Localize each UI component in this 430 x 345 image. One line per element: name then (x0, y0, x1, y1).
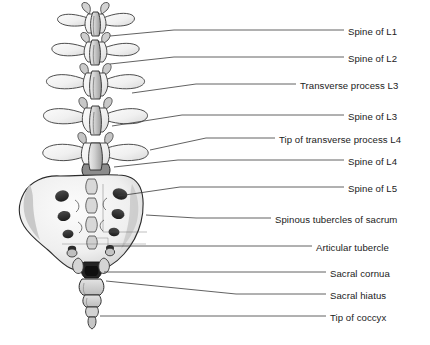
l2-vertebra (52, 32, 139, 65)
label-articular-tubercle: Articular tubercle (316, 242, 389, 253)
l1-vertebra (58, 2, 135, 36)
label-spinous-tubercles-of-sacrum: Spinous tubercles of sacrum (275, 214, 397, 225)
label-tip-of-coccyx: Tip of coccyx (330, 312, 386, 323)
label-spine-of-l3: Spine of L3 (348, 111, 397, 122)
sacrum (20, 175, 148, 278)
l3-vertebra (46, 64, 144, 99)
l5-vertebra (43, 133, 148, 180)
leader-line-spinous-tubercles-of-sacrum (146, 215, 271, 218)
label-sacral-cornua: Sacral cornua (330, 268, 390, 279)
label-tip-of-transverse-process-l4: Tip of transverse process L4 (279, 134, 401, 145)
label-spine-of-l4: Spine of L4 (348, 156, 397, 167)
label-sacral-hiatus: Sacral hiatus (330, 290, 386, 301)
anatomical-figure: Spine of L1 Spine of L2 Transverse proce… (0, 0, 430, 345)
label-spine-of-l2: Spine of L2 (348, 53, 397, 64)
coccyx (79, 279, 104, 329)
leader-line-spine-of-l4 (114, 160, 344, 167)
l4-vertebra (43, 98, 147, 135)
leader-line-spine-of-l2 (110, 57, 344, 64)
label-transverse-process-l3: Transverse process L3 (300, 80, 398, 91)
leader-line-spine-of-l5 (118, 187, 344, 196)
leader-line-tip-of-transverse-process-l4 (150, 138, 275, 150)
leader-line-sacral-hiatus (106, 281, 326, 294)
leader-line-spine-of-l1 (110, 30, 344, 36)
label-spine-of-l5: Spine of L5 (348, 183, 397, 194)
leader-line-transverse-process-l3 (132, 84, 296, 93)
leader-lines-group (100, 30, 344, 316)
label-spine-of-l1: Spine of L1 (348, 26, 397, 37)
